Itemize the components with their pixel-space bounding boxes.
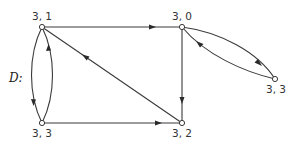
edge-33-to-31-curve: [42, 27, 53, 123]
nodes: [39, 24, 277, 125]
node-3-0: [179, 24, 184, 29]
node-label-3-2: 3, 2: [172, 127, 192, 139]
graph-name-label: D:: [8, 71, 23, 85]
edge-33-to-30-curve: [182, 27, 275, 79]
node-label-3-3-right: 3, 3: [266, 83, 286, 95]
edges: [31, 25, 275, 126]
node-label-3-0: 3, 0: [172, 10, 192, 22]
node-3-2: [179, 120, 184, 125]
arrowhead-icon: [82, 55, 90, 61]
edge-31-to-33-curve: [32, 27, 43, 123]
node-label-3-3-left: 3, 3: [32, 127, 52, 139]
node-labels: 3, 1 3, 0 3, 3 3, 2 3, 3: [32, 10, 286, 139]
arrowhead-icon: [46, 44, 51, 51]
graph-diagram: D: 3, 1 3, 0: [0, 0, 296, 150]
edge-32-to-31: [42, 27, 182, 123]
arrowhead-icon: [155, 121, 162, 126]
arrowhead-icon: [180, 97, 185, 104]
arrowhead-icon: [149, 25, 156, 30]
node-3-3-left: [39, 120, 44, 125]
node-3-1: [39, 24, 44, 29]
node-label-3-1: 3, 1: [32, 10, 52, 22]
node-3-3-right: [272, 76, 277, 81]
edge-30-to-33-curve: [182, 27, 275, 79]
